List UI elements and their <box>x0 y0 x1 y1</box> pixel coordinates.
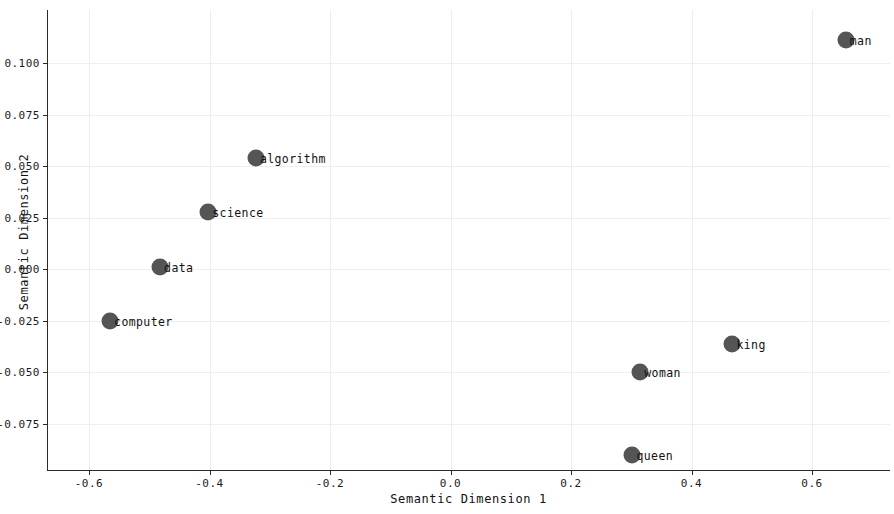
gridline-horizontal <box>48 115 890 116</box>
gridline-vertical <box>571 10 572 470</box>
x-tick-label: 0.6 <box>801 477 822 490</box>
y-tick <box>43 63 47 64</box>
gridline-vertical <box>330 10 331 470</box>
y-tick-label: -0.075 <box>0 418 40 431</box>
x-tick <box>692 471 693 475</box>
x-tick <box>210 471 211 475</box>
x-tick-label: -0.4 <box>195 477 224 490</box>
y-axis-title: Semantic Dimension 2 <box>17 112 31 352</box>
x-tick <box>571 471 572 475</box>
x-tick <box>451 471 452 475</box>
x-tick-label: 0.2 <box>560 477 581 490</box>
gridline-horizontal <box>48 372 890 373</box>
y-tick <box>43 269 47 270</box>
data-point-label: science <box>212 206 263 220</box>
gridline-horizontal <box>48 321 890 322</box>
axis-spine-left <box>47 10 48 471</box>
x-tick-label: -0.2 <box>316 477 345 490</box>
y-tick <box>43 372 47 373</box>
axis-spine-bottom <box>47 470 890 471</box>
data-point-label: data <box>164 261 193 275</box>
gridline-vertical <box>812 10 813 470</box>
gridline-vertical <box>89 10 90 470</box>
x-tick <box>330 471 331 475</box>
gridline-horizontal <box>48 218 890 219</box>
gridline-vertical <box>692 10 693 470</box>
data-point-label: man <box>850 34 872 48</box>
y-tick <box>43 115 47 116</box>
scatter-plot-figure: 0.1000.0750.0500.0250.000-0.025-0.050-0.… <box>0 0 894 514</box>
data-point-label: queen <box>636 449 673 463</box>
y-tick <box>43 218 47 219</box>
x-tick <box>89 471 90 475</box>
y-tick-label: 0.100 <box>4 57 40 70</box>
gridline-horizontal <box>48 424 890 425</box>
gridline-vertical <box>210 10 211 470</box>
y-tick <box>43 424 47 425</box>
x-tick-label: -0.6 <box>75 477 104 490</box>
plot-area <box>47 10 890 470</box>
y-tick-label: -0.050 <box>0 366 40 379</box>
data-point-label: woman <box>644 366 681 380</box>
gridline-vertical <box>451 10 452 470</box>
y-tick <box>43 166 47 167</box>
data-point-label: king <box>736 338 765 352</box>
gridline-horizontal <box>48 166 890 167</box>
x-axis-title: Semantic Dimension 1 <box>47 492 890 506</box>
data-point-label: computer <box>114 315 173 329</box>
data-point-label: algorithm <box>260 152 326 166</box>
x-tick-label: 0.0 <box>440 477 461 490</box>
x-tick <box>812 471 813 475</box>
y-tick <box>43 321 47 322</box>
gridline-horizontal <box>48 63 890 64</box>
x-tick-label: 0.4 <box>681 477 702 490</box>
